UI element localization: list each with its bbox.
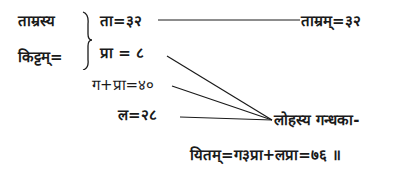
item-ga-pra: ग+प्रा=४० [92,76,154,94]
left-label-line1: ताम्रस्य [18,12,55,30]
result-lohasya-line1: लोहस्य गन्धका- [274,111,359,129]
result-tamram: ताम्रम्=३२ [301,12,361,30]
brace-icon [80,10,94,70]
connector-line-pra [167,56,272,120]
left-label-line2: किट्टम्= [18,48,63,66]
connector-line-ga-pra [172,86,272,120]
bracket-item-pra: प्रा = ८ [100,44,144,62]
item-la: ल=२८ [118,106,157,124]
bracket-item-ta: ता=३२ [100,12,142,30]
result-lohasya-line2: यितम्=ग३प्रा+लप्रा=७६ ॥ [190,146,341,164]
connector-line-la [180,117,272,120]
